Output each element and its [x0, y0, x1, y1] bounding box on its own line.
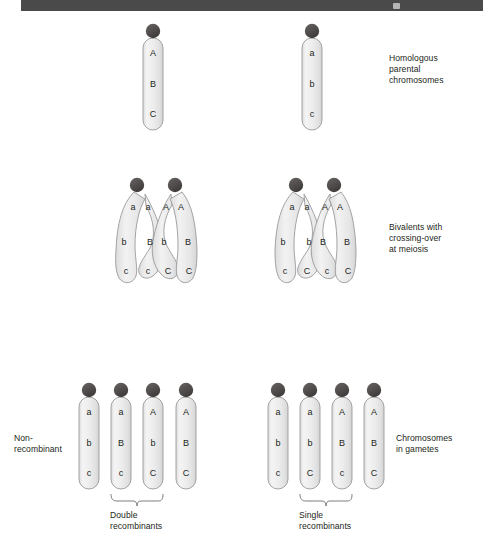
allele-label: a	[275, 407, 280, 417]
centromere-icon	[146, 383, 160, 397]
allele-label: A	[339, 407, 345, 417]
allele-label: c	[340, 468, 345, 478]
centromere-icon	[82, 383, 96, 397]
allele-label: B	[344, 237, 350, 247]
allele-label: C	[165, 266, 172, 276]
chromosome-parent-left: A B C	[143, 24, 163, 130]
allele-label: C	[304, 266, 311, 276]
centromere-icon	[289, 178, 303, 192]
chromosome-gamete-r4: A B C	[364, 383, 384, 489]
annotation-non-recombinant: Non- recombinant	[14, 433, 76, 455]
allele-label: A	[337, 202, 343, 212]
allele-label: C	[186, 266, 193, 276]
chromosome-gamete-l2: a B c	[111, 383, 131, 489]
allele-label: a	[289, 202, 294, 212]
allele-label: c	[124, 266, 129, 276]
allele-label: b	[307, 438, 312, 448]
allele-label: b	[309, 79, 314, 89]
allele-label: c	[276, 468, 281, 478]
centromere-icon	[303, 383, 317, 397]
allele-label: c	[119, 468, 124, 478]
centromere-icon	[367, 383, 381, 397]
centromere-icon	[305, 24, 319, 38]
allele-label: b	[86, 438, 91, 448]
allele-label: C	[183, 468, 190, 478]
allele-label: c	[310, 109, 315, 119]
centromere-icon	[114, 383, 128, 397]
allele-label: C	[307, 468, 314, 478]
allele-label: C	[150, 109, 157, 119]
allele-label: b	[306, 237, 311, 247]
allele-label: A	[178, 202, 184, 212]
allele-label: a	[145, 202, 150, 212]
allele-label: B	[118, 438, 124, 448]
annotation-homologous-parental-chromosomes: Homologous parental chromosomes	[389, 53, 479, 87]
allele-label: C	[150, 468, 157, 478]
allele-label: C	[371, 468, 378, 478]
double-recombinants-bracket	[111, 494, 163, 506]
allele-label: b	[121, 237, 126, 247]
allele-label: c	[87, 468, 92, 478]
allele-label: A	[322, 202, 328, 212]
allele-label: C	[345, 266, 352, 276]
chromosome-gamete-r2: a b C	[300, 383, 320, 489]
allele-label: A	[150, 407, 156, 417]
centromere-icon	[179, 383, 193, 397]
allele-label: a	[309, 48, 314, 58]
allele-label: a	[307, 407, 312, 417]
centromere-icon	[327, 178, 341, 192]
allele-label: c	[325, 266, 330, 276]
centromere-icon	[271, 383, 285, 397]
chromosome-gamete-l3: A b C	[143, 383, 163, 489]
allele-label: a	[304, 202, 309, 212]
allele-label: B	[150, 79, 156, 89]
allele-label: B	[371, 438, 377, 448]
annotation-double-recombinants: Double recombinants	[110, 510, 188, 532]
allele-label: A	[163, 202, 169, 212]
bivalent-right: a a A A b b B B c C c C	[275, 178, 356, 283]
allele-label: B	[339, 438, 345, 448]
allele-label: b	[150, 438, 155, 448]
chromosome-gamete-l4: A B C	[176, 383, 196, 489]
single-recombinants-bracket	[300, 494, 352, 506]
bivalent-left: a a A A b B b B c c C C	[116, 178, 197, 283]
meiosis-crossing-over-figure: A B C a b c a a	[0, 0, 483, 543]
centromere-icon	[335, 383, 349, 397]
centromere-icon	[130, 178, 144, 192]
allele-label: b	[275, 438, 280, 448]
chromosome-gamete-r1: a b c	[268, 383, 288, 489]
row-parental-chromosomes: A B C a b c	[143, 24, 322, 130]
allele-label: A	[150, 48, 156, 58]
gametes-left-group: a b c a B c A b C A B	[79, 383, 196, 506]
allele-label: a	[86, 407, 91, 417]
allele-label: c	[283, 266, 288, 276]
allele-label: c	[146, 266, 151, 276]
allele-label: b	[280, 237, 285, 247]
gametes-right-group: a b c a b C A B c A B	[268, 383, 384, 506]
chromosome-parent-right: a b c	[302, 24, 322, 130]
allele-label: A	[371, 407, 377, 417]
allele-label: a	[130, 202, 135, 212]
allele-label: B	[320, 237, 326, 247]
allele-label: a	[118, 407, 123, 417]
allele-label: b	[161, 237, 166, 247]
allele-label: B	[147, 237, 153, 247]
annotation-bivalents-crossing-over: Bivalents with crossing-over at meiosis	[389, 222, 481, 256]
allele-label: A	[183, 407, 189, 417]
allele-label: B	[185, 237, 191, 247]
centromere-icon	[168, 178, 182, 192]
centromere-icon	[146, 24, 160, 38]
allele-label: B	[183, 438, 189, 448]
annotation-chromosomes-in-gametes: Chromosomes in gametes	[396, 433, 483, 455]
chromosome-gamete-r3: A B c	[332, 383, 352, 489]
chromosome-gamete-l1: a b c	[79, 383, 99, 489]
annotation-single-recombinants: Single recombinants	[299, 510, 377, 532]
